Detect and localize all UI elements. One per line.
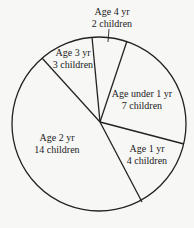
slice-value-age2: 14 children bbox=[34, 144, 79, 155]
pie-chart: Age 4 yr 2 children Age 3 yr 3 children … bbox=[0, 0, 194, 228]
slice-label-age1: Age 1 yr bbox=[130, 143, 166, 154]
divider-age3-age4 bbox=[92, 37, 100, 122]
slice-label-age3: Age 3 yr bbox=[56, 47, 92, 58]
pie-outline bbox=[12, 37, 186, 211]
slice-value-under1: 7 children bbox=[122, 100, 162, 111]
slice-value-age3: 3 children bbox=[53, 59, 93, 70]
slice-label-age2: Age 2 yr bbox=[40, 132, 76, 143]
age4-leader-line bbox=[108, 29, 109, 42]
divider-under1-age1 bbox=[100, 122, 184, 144]
slice-value-age1: 4 children bbox=[127, 155, 167, 166]
slice-label-age4: Age 4 yr bbox=[95, 6, 131, 17]
slice-label-under1: Age under 1 yr bbox=[112, 88, 173, 99]
slice-value-age4: 2 children bbox=[92, 18, 132, 29]
